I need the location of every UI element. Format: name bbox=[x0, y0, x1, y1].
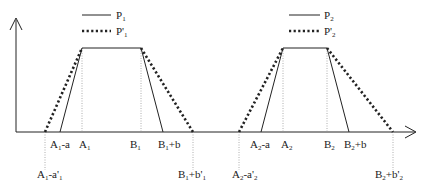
axes bbox=[10, 18, 416, 138]
svg-text:P2: P2 bbox=[324, 9, 334, 23]
svg-text:P'2: P'2 bbox=[324, 25, 336, 39]
p2-dotted-right bbox=[327, 48, 393, 132]
label-a2-minus-a2p: A2-a'2 bbox=[232, 168, 258, 182]
label-a1-minus-a1p: A1-a'1 bbox=[37, 168, 63, 182]
label-b1: B1 bbox=[130, 138, 141, 152]
legend-p1: P1 P'1 bbox=[82, 9, 128, 39]
trapezoid-p2 bbox=[239, 48, 393, 132]
label-b1-plus-b: B1+b bbox=[158, 138, 181, 152]
label-a1: A1 bbox=[79, 138, 91, 152]
guide-lines bbox=[45, 48, 393, 170]
trapezoid-diagram: P1 P'1 P2 P'2 A1-a A1 B1 B1+b A1-a'1 B1+… bbox=[0, 0, 427, 189]
p1-dotted-right bbox=[141, 48, 193, 132]
labels-p1: A1-a A1 B1 B1+b A1-a'1 B1+b'1 bbox=[37, 138, 207, 182]
labels-p2: A2-a A2 B2 B2+b A2-a'2 B2+b'2 bbox=[232, 138, 404, 182]
label-b2-plus-b: B2+b bbox=[344, 138, 367, 152]
label-a1-minus-a: A1-a bbox=[50, 138, 70, 152]
svg-text:P'1: P'1 bbox=[116, 25, 128, 39]
label-b2-plus-b2p: B2+b'2 bbox=[375, 168, 404, 182]
label-a2-minus-a: A2-a bbox=[250, 138, 270, 152]
label-b2: B2 bbox=[324, 138, 335, 152]
label-a2: A2 bbox=[281, 138, 293, 152]
label-b1-plus-b1p: B1+b'1 bbox=[178, 168, 207, 182]
legend-p2: P2 P'2 bbox=[289, 9, 336, 39]
trapezoid-p1 bbox=[45, 48, 193, 132]
svg-text:P1: P1 bbox=[116, 9, 126, 23]
p2-dotted-left bbox=[239, 48, 283, 132]
